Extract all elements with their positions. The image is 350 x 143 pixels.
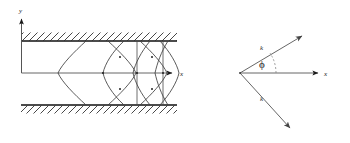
phi-angle-label: ϕ bbox=[259, 58, 265, 70]
figure-canvas: y x k k ϕ x bbox=[0, 0, 350, 143]
left-panel-y-axis-label: y bbox=[18, 7, 23, 15]
k-vector-lower bbox=[240, 73, 290, 128]
right-panel: k k ϕ x bbox=[239, 36, 328, 128]
top-wall-hatching bbox=[21, 33, 177, 41]
phi-angle-arc bbox=[270, 53, 276, 73]
k-vector-upper-label: k bbox=[260, 44, 264, 52]
k-vector-upper bbox=[240, 36, 302, 73]
left-panel-x-axis-label: x bbox=[179, 70, 184, 78]
origin-node bbox=[239, 72, 241, 74]
figure-root: y x k k ϕ x bbox=[0, 0, 350, 143]
left-panel: y x bbox=[18, 7, 184, 114]
bottom-wall-hatching bbox=[21, 106, 177, 114]
right-panel-x-axis-label: x bbox=[323, 70, 328, 78]
